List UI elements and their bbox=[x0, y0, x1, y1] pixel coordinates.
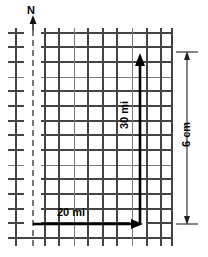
north-arrow-icon bbox=[30, 15, 37, 30]
vertical-distance-label: 30 mi bbox=[119, 101, 130, 129]
route-north-arrowhead bbox=[135, 53, 145, 66]
route-path bbox=[33, 53, 145, 229]
horizontal-distance-label: 20 mi bbox=[57, 207, 85, 218]
north-direction-label: N bbox=[27, 5, 35, 16]
map-dimension-label: 6 cm bbox=[181, 122, 192, 147]
map-scale-diagram: N 20 mi 30 mi 6 cm bbox=[0, 0, 208, 257]
diagram-canvas bbox=[0, 0, 208, 257]
grid-vertical-lines bbox=[16, 28, 172, 246]
